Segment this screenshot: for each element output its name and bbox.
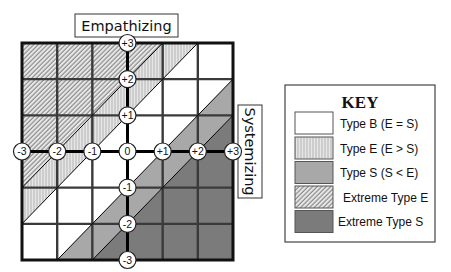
cell-type-b: [163, 79, 198, 115]
svg-text:+1: +1: [157, 145, 169, 157]
tick-s-plus2: +2: [189, 143, 206, 160]
cell-type-b: [57, 188, 92, 224]
extreme-type-s-swatch: [295, 211, 333, 233]
svg-text:-3: -3: [123, 254, 132, 266]
empathizing-systemizing-diagram: Empathizing Systemizing +3 +2 +1 -1 -2 -…: [0, 0, 451, 272]
svg-text:+3: +3: [227, 145, 239, 157]
tick-origin: 0: [119, 143, 136, 160]
tick-e-plus3: +3: [119, 35, 136, 52]
extreme-type-e-swatch: [295, 186, 333, 208]
type-e-swatch: [295, 137, 333, 159]
svg-text:-1: -1: [123, 181, 132, 193]
tick-s-minus2: -2: [49, 143, 66, 160]
tick-s-plus1: +1: [154, 143, 171, 160]
svg-text:-2: -2: [123, 218, 132, 230]
svg-text:+2: +2: [122, 73, 134, 85]
tick-s-plus3: +3: [225, 143, 242, 160]
cell-extreme-type-e: [22, 79, 57, 115]
key-legend: KEY Type B (E = S) Type E (E > S) Type S…: [285, 85, 435, 242]
tick-e-minus2: -2: [119, 215, 136, 232]
tick-s-minus3: -3: [14, 143, 31, 160]
svg-text:+1: +1: [122, 109, 134, 121]
cell-type-b: [198, 43, 233, 79]
cell-extreme-type-e: [22, 43, 57, 79]
type-b-label: Type B (E = S): [340, 117, 418, 131]
svg-text:+2: +2: [192, 145, 204, 157]
cell-extreme-type-s: [198, 224, 233, 260]
cell-extreme-type-s: [198, 188, 233, 224]
type-e-label: Type E (E > S): [340, 142, 418, 156]
svg-text:-2: -2: [52, 145, 61, 157]
extreme-type-s-label: Extreme Type S: [338, 215, 423, 229]
svg-text:0: 0: [125, 145, 131, 157]
tick-e-plus2: +2: [119, 71, 136, 88]
cell-extreme-type-s: [163, 224, 198, 260]
tick-e-minus1: -1: [119, 179, 136, 196]
cell-type-b: [22, 224, 57, 260]
tick-e-plus1: +1: [119, 107, 136, 124]
type-s-label: Type S (S < E): [340, 166, 418, 180]
extreme-type-e-label: Extreme Type E: [343, 191, 428, 205]
type-s-swatch: [295, 162, 333, 184]
svg-text:-3: -3: [17, 145, 26, 157]
svg-text:-1: -1: [88, 145, 97, 157]
type-b-swatch: [295, 112, 333, 134]
cell-extreme-type-e: [57, 43, 92, 79]
cell-extreme-type-s: [163, 188, 198, 224]
empathizing-label-box: Empathizing: [75, 14, 178, 37]
tick-e-minus3: -3: [119, 252, 136, 269]
cell-extreme-type-e: [57, 79, 92, 115]
systemizing-label: Systemizing: [242, 107, 258, 195]
tick-s-minus1: -1: [84, 143, 101, 160]
empathizing-label: Empathizing: [81, 18, 171, 34]
svg-text:+3: +3: [122, 37, 134, 49]
key-title: KEY: [342, 93, 379, 112]
